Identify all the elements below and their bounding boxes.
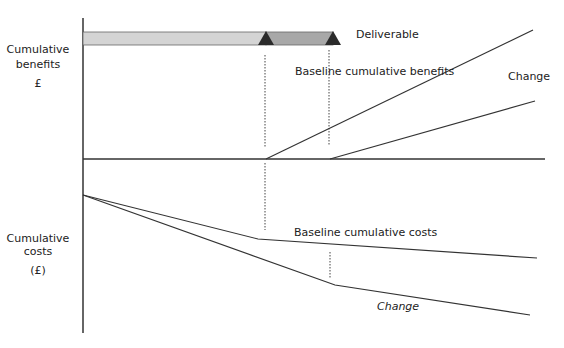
change-costs-label: Change [377,300,419,313]
change-benefits-label: Change [508,70,550,83]
benefits-costs-diagram [0,0,564,348]
deliverable-label: Deliverable [356,28,419,41]
costs-axis-label: Cumulative costs (£) [4,232,72,277]
change-costs-line [83,195,530,315]
deliverable-bar-phase2 [266,32,333,45]
baseline-costs-label: Baseline cumulative costs [294,226,437,239]
change-benefits-line [330,101,535,159]
costs-label-line2: costs [4,245,72,258]
benefits-label-line2: benefits [4,57,72,72]
benefits-label-line1: Cumulative [4,42,72,57]
benefits-label-unit: £ [4,76,72,91]
costs-label-unit: (£) [4,264,72,277]
benefits-axis-label: Cumulative benefits £ [4,42,72,91]
deliverable-bar-phase1 [83,32,266,45]
baseline-benefits-label: Baseline cumulative benefits [295,65,454,78]
costs-label-line1: Cumulative [4,232,72,245]
